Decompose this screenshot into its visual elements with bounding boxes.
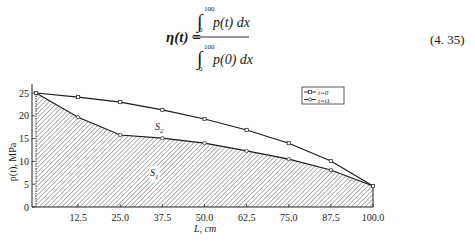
x-tick-label: 12.5 [69, 212, 87, 223]
x-tick-label: 37.5 [154, 212, 172, 223]
square-marker-icon [287, 142, 290, 145]
x-tick-label: 75.0 [280, 212, 298, 223]
legend-label: t=t1 [318, 97, 330, 105]
square-marker-icon [161, 108, 164, 111]
square-marker-icon [77, 96, 80, 99]
equation-lhs: η(t) = [166, 29, 201, 46]
equation-svg: η(t) = ∫ 100 0 p(t) dx ∫ 100 0 p(0) dx (… [0, 0, 475, 78]
circle-marker-icon [34, 91, 37, 94]
x-tick-label: 100.0 [362, 212, 385, 223]
circle-marker-icon [371, 184, 374, 187]
circle-marker-icon [76, 115, 79, 118]
s2-label: S2 [155, 121, 164, 135]
denominator-lower-limit: 0 [199, 65, 203, 73]
y-tick-label: 0 [24, 202, 29, 213]
circle-marker-icon [203, 141, 206, 144]
circle-marker-icon [245, 149, 248, 152]
square-marker-icon [245, 128, 248, 131]
circle-marker-icon [308, 98, 311, 101]
y-tick-label: 20 [19, 110, 29, 121]
equation-number: (4. 35) [430, 32, 465, 47]
s1-hatched-area [36, 93, 373, 207]
y-tick-label: 10 [19, 156, 29, 167]
circle-marker-icon [161, 136, 164, 139]
x-tick-label: 87.5 [322, 212, 340, 223]
legend: t=0 t=t1 [302, 87, 344, 105]
y-tick-label: 5 [24, 179, 29, 190]
square-marker-icon [203, 117, 206, 120]
square-marker-icon [309, 91, 312, 94]
denominator-integrand: p(0) dx [212, 52, 254, 68]
chart-container: 051015202512.525.037.550.062.575.087.510… [0, 78, 475, 244]
circle-marker-icon [329, 168, 332, 171]
x-tick-label: 50.0 [196, 212, 214, 223]
numerator-upper-limit: 100 [204, 5, 215, 13]
equation-block: η(t) = ∫ 100 0 p(t) dx ∫ 100 0 p(0) dx (… [0, 0, 475, 78]
circle-marker-icon [287, 157, 290, 160]
y-tick-label: 15 [19, 133, 29, 144]
x-tick-label: 25.0 [112, 212, 130, 223]
y-tick-label: 25 [19, 88, 29, 99]
x-axis-label: L, cm [193, 223, 216, 234]
x-tick-label: 62.5 [238, 212, 256, 223]
hatch-fill [36, 93, 373, 207]
circle-marker-icon [119, 133, 122, 136]
numerator-integrand: p(t) dx [212, 15, 251, 31]
square-marker-icon [119, 101, 122, 104]
numerator-lower-limit: 0 [199, 26, 203, 34]
denominator-upper-limit: 100 [204, 43, 215, 51]
y-axis-label: p(t), MPa [7, 142, 19, 181]
square-marker-icon [329, 159, 332, 162]
line-chart: 051015202512.525.037.550.062.575.087.510… [0, 78, 475, 244]
